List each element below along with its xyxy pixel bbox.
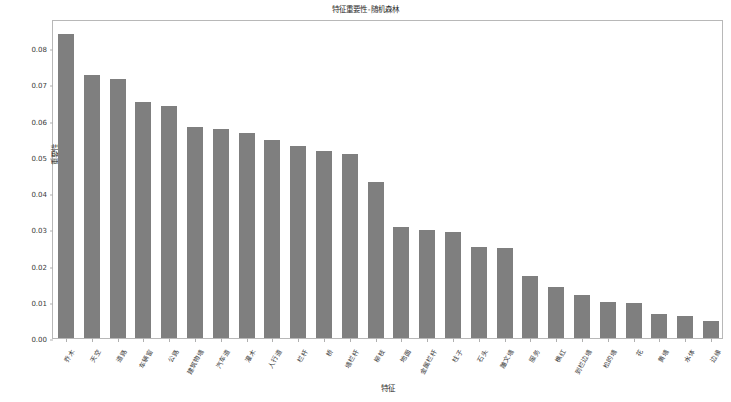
bar [368,182,384,338]
x-tick-label: 人行道 [265,347,284,370]
bar [290,146,306,338]
bar-group [58,21,74,338]
x-tick-mark [350,338,351,342]
x-tick-label: 建筑物墙 [184,347,206,376]
bar [264,140,280,338]
y-tick-mark [50,122,54,123]
x-tick-label: 柳枝 [372,347,387,364]
bar [600,302,616,338]
bar-group [187,21,203,338]
bar [84,75,100,338]
bar-group [342,21,358,338]
bar-group [548,21,564,338]
x-tick-mark [505,338,506,342]
x-tick-mark [92,338,93,342]
x-tick-mark [221,338,222,342]
bar [110,79,126,338]
y-tick-mark [50,340,54,341]
x-tick-label: 金属栏杆 [417,347,439,376]
bar [548,287,564,338]
bar [677,316,693,338]
x-tick-label: 汽车道 [213,347,232,370]
x-tick-label: 天空 [88,347,103,364]
bar-group [419,21,435,338]
x-tick-label: 服务 [526,347,541,364]
x-tick-label: 黄墙 [655,347,670,364]
bar [497,248,513,338]
bar [58,34,74,339]
bar [187,127,203,338]
x-tick-mark [453,338,454,342]
x-tick-label: 车辆窗 [136,347,155,370]
x-tick-label: 桥 [323,347,335,358]
bar [342,154,358,338]
bar [213,129,229,338]
x-tick-mark [427,338,428,342]
bar-group [522,21,538,338]
x-tick-mark [66,338,67,342]
y-tick-mark [50,50,54,51]
x-tick-label: 地面 [397,347,412,364]
bar [574,295,590,338]
x-tick-mark [582,338,583,342]
x-tick-label: 到栏边墙 [571,347,593,376]
x-tick-label: 樵红 [552,347,567,364]
bar-group [497,21,513,338]
bar [393,227,409,338]
x-tick-mark [324,338,325,342]
figure-canvas: 特征重要性-随机森林 重要性 0.000.010.020.030.040.050… [0,0,731,402]
bar-group [600,21,616,338]
x-tick-mark [143,338,144,342]
bar [522,276,538,338]
bar-group [110,21,126,338]
bar [445,232,461,338]
chart-title: 特征重要性-随机森林 [0,3,731,14]
bar-group [574,21,590,338]
x-tick-mark [247,338,248,342]
bar [626,303,642,338]
bar-group [703,21,719,338]
bar-group [213,21,229,338]
bar-group [393,21,409,338]
x-tick-mark [118,338,119,342]
x-tick-label: 雕文墙 [497,347,516,370]
y-tick-mark [50,86,54,87]
bar-group [368,21,384,338]
x-tick-label: 乔木 [62,347,77,364]
x-tick-label: 公路 [165,347,180,364]
bar [135,102,151,338]
y-tick-mark [50,231,54,232]
x-tick-label: 花 [633,347,645,358]
x-tick-mark [169,338,170,342]
y-tick-mark [50,303,54,304]
bar-group [264,21,280,338]
x-tick-label: 松的墙 [601,347,620,370]
bar [316,151,332,338]
x-tick-mark [634,338,635,342]
x-tick-mark [530,338,531,342]
bar-group [239,21,255,338]
x-tick-label: 柱子 [449,347,464,364]
bar-group [161,21,177,338]
x-axis-label: 特征 [52,382,723,393]
bar [651,314,667,338]
bar-group [651,21,667,338]
bar-group [290,21,306,338]
x-tick-mark [376,338,377,342]
bar-group [316,21,332,338]
y-tick-mark [50,267,54,268]
x-tick-mark [556,338,557,342]
x-tick-label: 水体 [681,347,696,364]
bar-group [445,21,461,338]
x-tick-mark [298,338,299,342]
x-tick-label: 边缘 [707,347,722,364]
x-tick-label: 石头 [475,347,490,364]
x-tick-mark [479,338,480,342]
y-tick-mark [50,195,54,196]
bar-group [84,21,100,338]
plot-area: 重要性 0.000.010.020.030.040.050.060.070.08… [52,20,723,339]
y-tick-mark [50,158,54,159]
x-tick-mark [401,338,402,342]
x-tick-mark [608,338,609,342]
x-tick-label: 栏杆 [294,347,309,364]
